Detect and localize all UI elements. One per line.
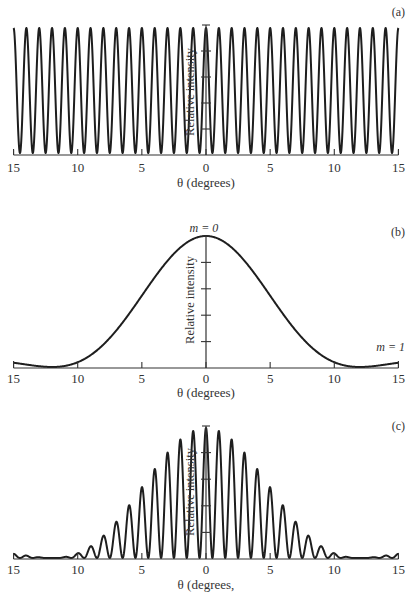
panel-a: (a) 15105051015 Relative intensity θ (de… bbox=[7, 5, 405, 190]
x-tick-label: 0 bbox=[203, 562, 210, 577]
x-tick-label: 15 bbox=[392, 562, 405, 577]
panel-label-a: (a) bbox=[392, 5, 405, 19]
x-tick-label: 5 bbox=[267, 160, 274, 175]
x-axis-label-a: θ (degrees) bbox=[177, 175, 235, 190]
x-tick-label: 10 bbox=[71, 371, 84, 386]
x-tick-label: 10 bbox=[328, 160, 341, 175]
annotation-m0: m = 0 bbox=[190, 221, 219, 235]
y-axis-b bbox=[201, 236, 211, 368]
x-tick-label: 15 bbox=[392, 160, 405, 175]
panel-b: (b) m = 0 m = 1 15105051015 Relative int… bbox=[7, 221, 405, 400]
annotation-m1: m = 1 bbox=[376, 340, 405, 354]
x-tick-label: 5 bbox=[139, 562, 146, 577]
x-tick-label: 15 bbox=[7, 160, 20, 175]
x-tick-label: 5 bbox=[267, 562, 274, 577]
x-axis-label-b: θ (degrees) bbox=[177, 385, 235, 400]
x-tick-label: 5 bbox=[267, 371, 274, 386]
y-axis-label-c: Relative intensity bbox=[183, 447, 197, 536]
x-tick-label: 10 bbox=[328, 562, 341, 577]
x-tick-label: 15 bbox=[392, 371, 405, 386]
y-axis-label-b: Relative intensity bbox=[183, 255, 197, 344]
diffraction-figure: (a) 15105051015 Relative intensity θ (de… bbox=[0, 0, 414, 598]
x-tick-label: 5 bbox=[139, 160, 146, 175]
x-tick-label: 10 bbox=[71, 562, 84, 577]
panel-label-b: (b) bbox=[391, 225, 405, 239]
x-tick-label: 5 bbox=[139, 371, 146, 386]
panel-c: (c) 15105051015 Relative intensity θ (de… bbox=[7, 419, 405, 592]
x-tick-label: 10 bbox=[328, 371, 341, 386]
x-axis-label-c: θ (degrees, bbox=[178, 577, 235, 592]
x-tick-label: 0 bbox=[203, 160, 210, 175]
y-axis-label-a: Relative intensity bbox=[183, 47, 197, 136]
x-tick-label: 0 bbox=[203, 371, 210, 386]
x-tick-label: 15 bbox=[7, 562, 20, 577]
panel-label-c: (c) bbox=[392, 419, 405, 433]
x-tick-label: 15 bbox=[7, 371, 20, 386]
x-tick-label: 10 bbox=[71, 160, 84, 175]
